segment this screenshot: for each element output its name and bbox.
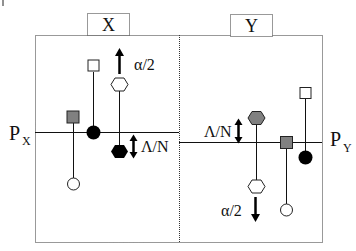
down-arrow-icon xyxy=(251,214,260,222)
black-hexagon-icon xyxy=(111,145,128,158)
white-circle-icon-y xyxy=(281,204,293,216)
white-square-icon xyxy=(88,60,99,71)
x-alpha-label: α/2 xyxy=(134,56,155,73)
diagram-canvas: X Y P X α/2 Λ/N P xyxy=(0,0,356,251)
white-hexagon-icon-y xyxy=(248,180,265,193)
panel-x: P X α/2 Λ/N xyxy=(9,48,179,190)
panel-y-header: Y xyxy=(231,15,273,37)
panel-y: P Y Λ/N α/2 xyxy=(179,88,352,223)
gray-square-icon-y xyxy=(281,137,293,149)
panel-x-header: X xyxy=(88,14,130,36)
y-lambda-label: Λ/N xyxy=(204,123,232,140)
double-arrow-down-head-icon xyxy=(130,152,138,159)
panel-x-label: X xyxy=(102,15,115,35)
py-subscript: Y xyxy=(343,141,352,155)
py-label: P xyxy=(330,128,341,150)
gray-hexagon-icon xyxy=(248,112,265,125)
px-label: P xyxy=(9,122,20,144)
panel-y-label: Y xyxy=(245,16,258,36)
y-alpha-label: α/2 xyxy=(221,202,242,219)
white-circle-icon xyxy=(68,178,80,190)
white-hexagon-icon xyxy=(111,78,128,91)
black-circle-icon xyxy=(87,126,101,140)
white-square-icon-y xyxy=(300,88,311,99)
double-arrow-up-head-icon xyxy=(130,135,138,142)
x-lambda-label: Λ/N xyxy=(141,138,169,155)
up-arrow-icon xyxy=(115,48,124,56)
black-circle-icon-y xyxy=(299,151,313,165)
px-subscript: X xyxy=(22,134,31,148)
gray-square-icon xyxy=(67,111,79,123)
double-arrow-up-head-icon-y xyxy=(235,119,243,126)
